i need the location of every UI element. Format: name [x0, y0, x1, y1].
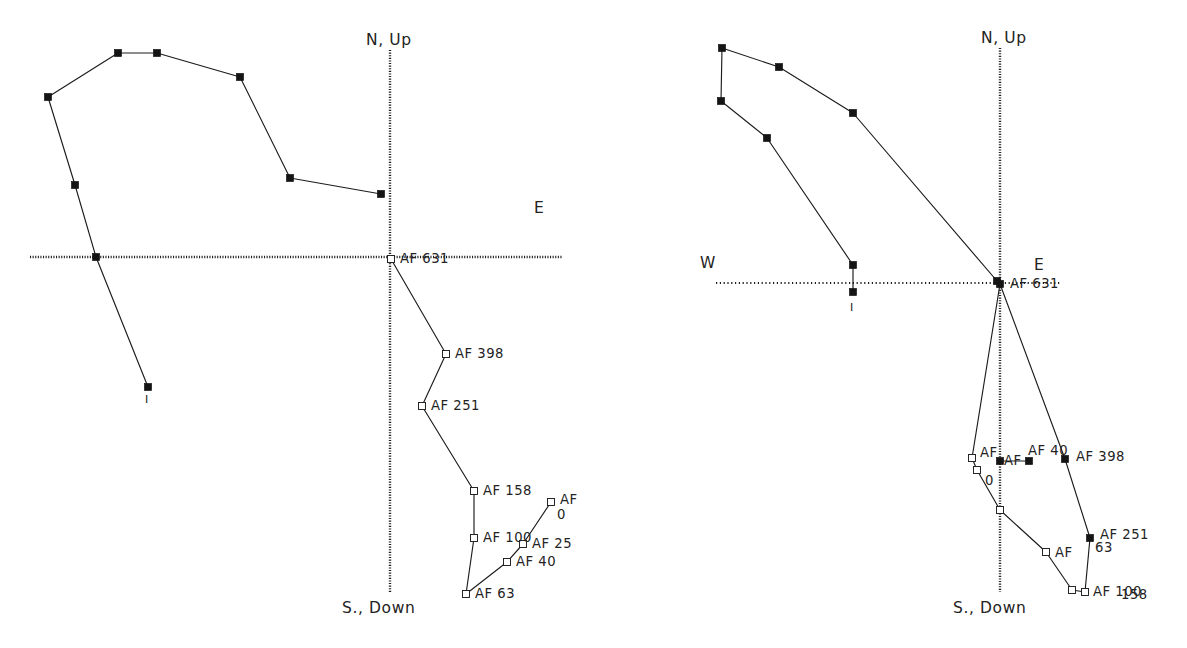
data-point — [764, 135, 771, 142]
data-point — [72, 182, 79, 189]
point-label-af0-value: 0 — [985, 473, 994, 488]
data-point — [115, 50, 122, 57]
vertical-component-outer-line — [1000, 284, 1090, 592]
data-point — [1087, 535, 1094, 542]
axis-label-up: N, Up — [981, 29, 1027, 47]
axis-label-east: E — [1034, 256, 1044, 274]
right-zijderveld-panel: N, Up E W S., Down AF 631 AF 398 AF 251 … — [600, 0, 1187, 648]
point-label-af-outer-branch: AF — [1004, 453, 1022, 468]
point-label-af398: AF 398 — [1076, 449, 1125, 464]
point-label-inclination-marker: I — [145, 393, 149, 406]
point-label-af158-value: 158 — [1121, 587, 1148, 602]
point-label-af100: AF 100 — [483, 530, 532, 545]
data-point — [287, 175, 294, 182]
data-point — [45, 94, 52, 101]
point-label-af0-prefix: AF — [980, 445, 998, 460]
data-point — [471, 488, 478, 495]
point-label-af158: AF 158 — [483, 483, 532, 498]
point-label-af398: AF 398 — [455, 346, 504, 361]
data-point — [850, 262, 857, 269]
left-zijderveld-panel: N, Up E S., Down AF 631 AF 398 AF 251 AF… — [0, 0, 600, 648]
point-label-af63: AF 63 — [475, 586, 515, 601]
horizontal-component-tail-line — [48, 97, 148, 387]
point-label-af0-value: 0 — [557, 507, 566, 522]
horizontal-component-line — [722, 48, 997, 281]
data-point — [388, 256, 395, 263]
data-point — [718, 98, 725, 105]
data-point — [974, 467, 981, 474]
data-point — [1069, 587, 1076, 594]
data-point — [93, 254, 100, 261]
axis-label-up: N, Up — [366, 31, 412, 49]
data-point — [850, 110, 857, 117]
point-label-af63-value: 63 — [1095, 540, 1113, 555]
data-point — [419, 403, 426, 410]
point-label-af631: AF 631 — [1010, 276, 1059, 291]
point-label-af-inner: AF — [1055, 545, 1073, 560]
data-point — [237, 74, 244, 81]
data-point — [154, 50, 161, 57]
point-label-af251: AF 251 — [431, 398, 480, 413]
point-label-af40: AF 40 — [1028, 443, 1068, 458]
data-point — [463, 591, 470, 598]
right-panel-plot-area: N, Up E W S., Down AF 631 AF 398 AF 251 … — [600, 0, 1187, 648]
data-point — [504, 559, 511, 566]
point-label-af25: AF 25 — [532, 536, 572, 551]
data-point — [378, 191, 385, 198]
point-label-af631: AF 631 — [400, 251, 449, 266]
data-point — [1082, 589, 1089, 596]
data-point — [850, 289, 857, 296]
left-panel-plot-area: N, Up E S., Down AF 631 AF 398 AF 251 AF… — [0, 0, 600, 648]
data-point — [548, 499, 555, 506]
axis-label-down: S., Down — [342, 599, 415, 617]
zijderveld-figure: N, Up E S., Down AF 631 AF 398 AF 251 AF… — [0, 0, 1187, 648]
axis-label-down: S., Down — [953, 599, 1026, 617]
data-point — [997, 281, 1004, 288]
axis-label-east: E — [534, 199, 544, 217]
horizontal-component-tail-line — [721, 48, 853, 292]
data-point — [997, 507, 1004, 514]
point-label-af40: AF 40 — [516, 554, 556, 569]
data-point — [1043, 549, 1050, 556]
data-point — [443, 351, 450, 358]
data-point — [1026, 458, 1033, 465]
point-label-af0-prefix: AF — [560, 492, 578, 507]
horizontal-component-line — [48, 53, 381, 194]
data-point — [471, 535, 478, 542]
point-label-inclination-marker: I — [850, 301, 854, 314]
data-point — [776, 64, 783, 71]
data-point — [969, 455, 976, 462]
data-point — [719, 45, 726, 52]
axis-label-west: W — [700, 254, 716, 272]
data-point — [145, 384, 152, 391]
